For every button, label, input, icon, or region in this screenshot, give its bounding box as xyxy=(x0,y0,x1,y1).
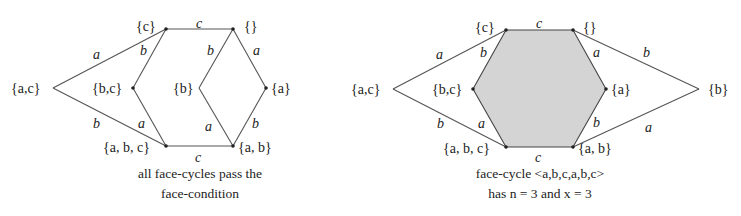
vertex-label-ab: {a, b} xyxy=(238,140,272,155)
vertex-dot-bc xyxy=(131,86,135,90)
vertex-label-empty: {} xyxy=(583,20,596,35)
vertex-dot-c xyxy=(504,28,508,32)
vertex-dot-abc xyxy=(504,145,508,149)
vertex-dot-a xyxy=(264,86,268,90)
vertex-label-a: {a} xyxy=(611,82,631,97)
edge-empty-a xyxy=(233,29,266,88)
edge-label-ac-c: a xyxy=(436,47,443,62)
edge-label-abc-ab: c xyxy=(535,150,542,165)
edge-label-bc-abc: a xyxy=(138,116,145,131)
vertex-dot-c xyxy=(164,27,168,31)
vertex-label-b: {b} xyxy=(173,81,193,96)
left-diagram: {a,c} {c} {} {b,c} {b} {a} {a, b, c} {a,… xyxy=(11,16,291,201)
right-diagram: {a,c} {c} {} {b,c} {a} {b} {a, b, c} {a,… xyxy=(351,16,728,201)
vertex-label-empty: {} xyxy=(244,19,257,34)
edge-label-empty-a: a xyxy=(593,45,600,60)
edge-label-c-bc: b xyxy=(480,45,487,60)
edge-label-a-ab: b xyxy=(593,115,600,130)
edge-label-b-ab: a xyxy=(205,119,212,134)
vertex-label-b: {b} xyxy=(708,82,728,97)
vertex-dot-a xyxy=(604,87,608,91)
edge-label-c-empty: c xyxy=(196,16,203,31)
vertex-dot-empty xyxy=(571,28,575,32)
edge-label-empty-b: b xyxy=(643,45,650,60)
vertex-label-ac: {a,c} xyxy=(351,82,380,97)
vertex-label-c: {c} xyxy=(475,20,495,35)
right-caption-line-2: has n = 3 and x = 3 xyxy=(488,186,592,201)
vertex-dot-bc xyxy=(471,87,475,91)
vertex-label-bc: {b,c} xyxy=(92,81,122,96)
vertex-label-a: {a} xyxy=(271,81,291,96)
face-cycle-diagrams: {a,c} {c} {} {b,c} {b} {a} {a, b, c} {a,… xyxy=(0,0,741,216)
vertex-label-c: {c} xyxy=(136,19,156,34)
edge-label-b-ab: a xyxy=(645,120,652,135)
vertex-dot-empty xyxy=(231,27,235,31)
vertex-label-ac: {a,c} xyxy=(11,81,40,96)
edge-b-ab xyxy=(199,88,233,146)
edge-label-a-ab: b xyxy=(252,116,259,131)
vertex-label-ab: {a, b} xyxy=(578,141,612,156)
left-caption-line-1: all face-cycles pass the xyxy=(138,166,262,181)
left-caption-line-2: face-condition xyxy=(161,186,239,201)
vertex-label-bc: {b,c} xyxy=(432,82,462,97)
edge-label-ac-c: a xyxy=(93,47,100,62)
edge-label-bc-abc: a xyxy=(478,116,485,131)
edge-label-abc-ab: c xyxy=(195,150,202,165)
vertex-dot-ab xyxy=(231,144,235,148)
edge-empty-b xyxy=(199,29,233,88)
edge-label-c-empty: c xyxy=(536,16,543,31)
edge-label-empty-b: b xyxy=(207,43,214,58)
edge-label-empty-a: a xyxy=(253,43,260,58)
vertex-dot-ab xyxy=(571,145,575,149)
vertex-label-abc: {a, b, c} xyxy=(103,140,150,155)
edge-label-c-bc: b xyxy=(140,43,147,58)
edge-label-ac-abc: b xyxy=(93,116,100,131)
right-caption-line-1: face-cycle <a,b,c,a,b,c> xyxy=(476,166,604,181)
highlighted-face xyxy=(473,30,606,147)
edge-a-ab xyxy=(233,88,266,146)
vertex-label-abc: {a, b, c} xyxy=(443,141,490,156)
vertex-dot-abc xyxy=(164,144,168,148)
edge-label-ac-abc: b xyxy=(437,116,444,131)
